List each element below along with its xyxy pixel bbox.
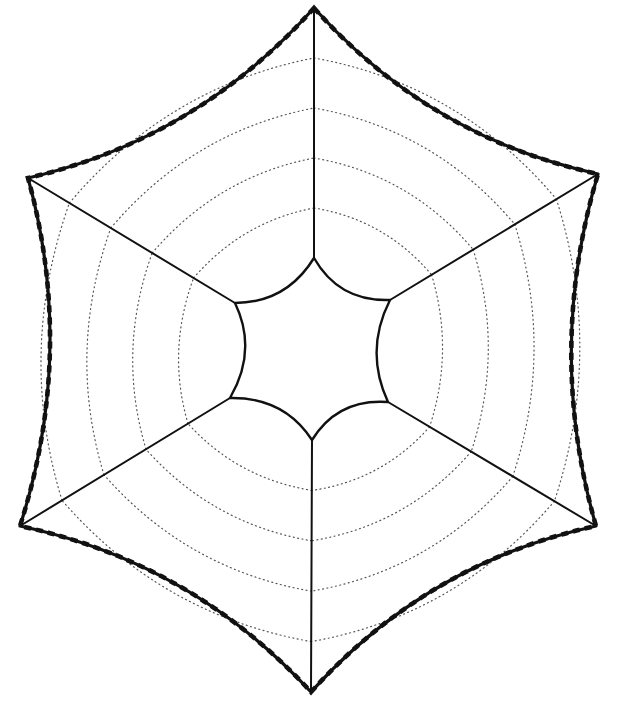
spoke-line [311, 440, 312, 692]
spider-web-diagram [0, 0, 622, 719]
